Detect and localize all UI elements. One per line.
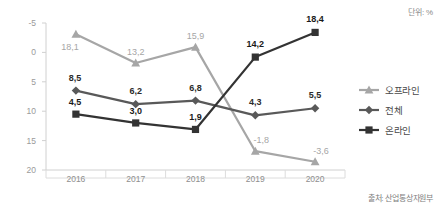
x-axis-tick-label: 2017 (126, 174, 145, 184)
x-axis-tick-label: 2018 (186, 174, 205, 184)
diamond-marker (251, 111, 259, 119)
square-marker (365, 126, 372, 133)
legend-item-1[interactable]: 오프라인 (358, 80, 438, 100)
x-axis-tick-label: 2019 (246, 174, 265, 184)
data-point-label: -1,8 (254, 135, 270, 145)
data-point-label: 14,2 (247, 39, 265, 49)
diamond-marker (311, 104, 319, 112)
triangle-marker (72, 30, 81, 38)
square-marker (192, 126, 199, 133)
data-point-label: 18,4 (306, 14, 324, 24)
diamond-marker (72, 86, 80, 94)
diamond-marker (191, 96, 199, 104)
y-axis-tick-label: -5 (10, 18, 36, 28)
square-marker (312, 29, 319, 36)
legend-item-3[interactable]: 온라인 (358, 120, 438, 140)
y-axis-tick-label: 15 (10, 136, 36, 146)
data-point-label: 6,2 (129, 86, 142, 96)
legend-item-label: 전체 (385, 103, 402, 117)
source-note: 출처: 산업통상자원부 (368, 192, 433, 203)
data-point-label: 5,5 (309, 90, 322, 100)
legend-item-label: 오프라인 (385, 83, 420, 97)
chart-legend: 오프라인전체온라인 (358, 80, 438, 140)
data-point-label: 4,5 (69, 97, 82, 107)
y-axis-tick-label: 20 (10, 165, 36, 175)
data-point-label: 3,0 (129, 106, 142, 116)
y-axis-tick-label: 0 (10, 47, 36, 57)
chart-container: 단위: % 20151050-5 20162017201820192020 18… (0, 0, 439, 206)
data-point-label: 15,9 (187, 31, 205, 41)
data-point-label: 4,3 (249, 97, 262, 107)
square-marker (132, 119, 139, 126)
diamond-marker (365, 106, 373, 114)
data-point-label: 1,9 (189, 112, 202, 122)
diamond-marker (358, 104, 380, 116)
triangle-marker (191, 43, 200, 51)
data-point-label: 13,2 (127, 47, 145, 57)
square-marker (358, 124, 380, 136)
data-point-label: -3,6 (313, 146, 329, 156)
y-axis-tick-label: 5 (10, 77, 36, 87)
triangle-marker (358, 84, 380, 96)
square-marker (72, 111, 79, 118)
data-point-label: 18,1 (61, 42, 79, 52)
data-point-label: 6,8 (189, 83, 202, 93)
x-axis-tick-label: 2016 (66, 174, 85, 184)
data-point-label: 8,5 (69, 73, 82, 83)
legend-item-2[interactable]: 전체 (358, 100, 438, 120)
y-axis-tick-label: 10 (10, 106, 36, 116)
x-axis-tick-label: 2020 (306, 174, 325, 184)
legend-item-label: 온라인 (385, 123, 411, 137)
square-marker (252, 54, 259, 61)
